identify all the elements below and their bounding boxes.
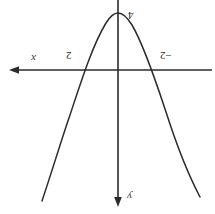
y-axis bbox=[114, 0, 122, 207]
parabola-curve bbox=[42, 13, 200, 201]
plot-canvas bbox=[0, 0, 215, 214]
parabola-figure: 4 2 −2 x y bbox=[0, 0, 215, 214]
vertex-value-label: 4 bbox=[128, 10, 134, 21]
x-axis-arrowhead-icon bbox=[9, 66, 19, 74]
x-axis-label: x bbox=[31, 53, 36, 64]
y-axis-label: y bbox=[127, 191, 132, 202]
x-axis bbox=[9, 66, 212, 74]
left-x-intercept-label: 2 bbox=[66, 50, 72, 61]
y-axis-arrowhead-icon bbox=[114, 197, 122, 207]
right-x-intercept-label: −2 bbox=[160, 50, 172, 61]
